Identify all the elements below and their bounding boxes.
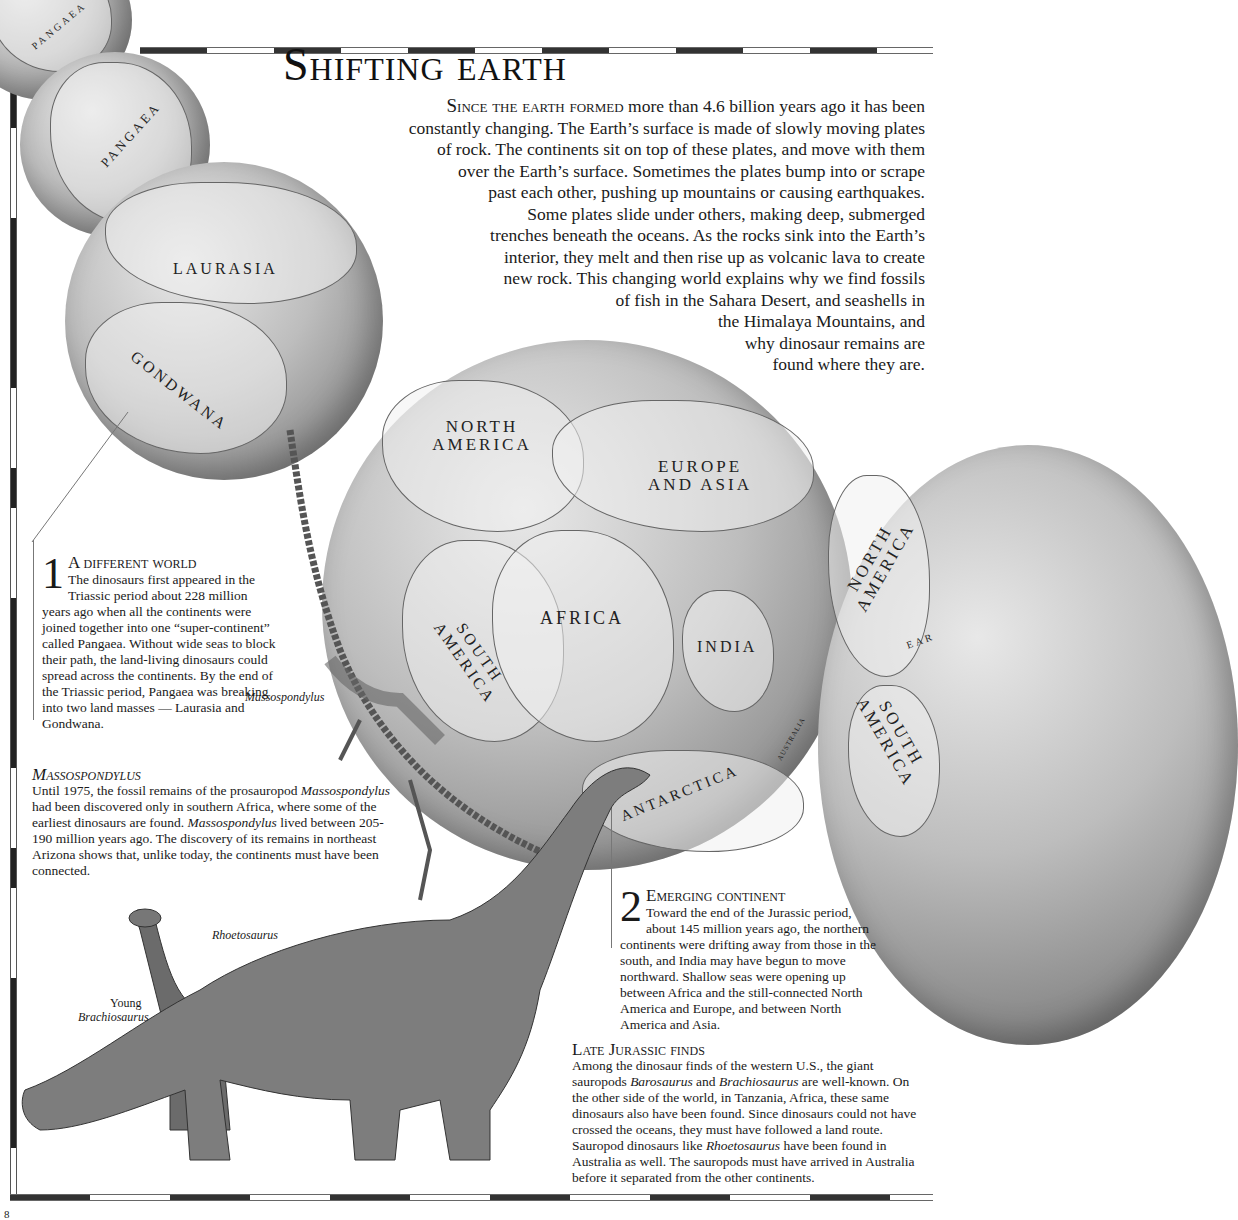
intro-paragraph: Since the earth formed more than 4.6 bil…: [340, 95, 925, 376]
left-decorative-border: [10, 88, 17, 1198]
globe-partial-right: NORTH AMERICA EAR SOUTH AMERICA: [818, 445, 1238, 1045]
section-title: Late Jurassic finds: [572, 1042, 927, 1058]
callout-a-different-world: 1 A different world The dinosaurs first …: [42, 555, 277, 732]
callout-number: 1: [42, 557, 64, 591]
young-caption: Young: [110, 996, 141, 1011]
rhoetosaurus-caption: Rhoetosaurus: [212, 928, 278, 943]
page-title: Shifting earth: [283, 38, 567, 91]
intro-lead: Since the earth formed: [447, 95, 624, 116]
late-jurassic-finds-section: Late Jurassic finds Among the dinosaur f…: [572, 1042, 927, 1186]
callout-number: 2: [620, 890, 642, 924]
callout-body: Toward the end of the Jurassic period, a…: [620, 905, 876, 1032]
callout-body: The dinosaurs first appeared in the Tria…: [42, 572, 276, 731]
bottom-decorative-border: [10, 1194, 933, 1201]
globe-label: INDIA: [697, 638, 757, 656]
globe-label: AUSTRALIA: [776, 716, 807, 762]
callout-emerging-continent: 2 Emerging continent Toward the end of t…: [620, 888, 880, 1033]
callout-heading: Emerging continent: [646, 886, 785, 905]
sauropod-illustration: [20, 750, 660, 1170]
brachiosaurus-caption: Brachiosaurus: [78, 1010, 149, 1025]
globe-label: LAURASIA: [173, 260, 278, 278]
page-number: 8: [4, 1208, 10, 1220]
callout1-leader-line: [33, 540, 34, 720]
callout1-leader-diagonal: [30, 410, 130, 545]
callout-heading: A different world: [68, 553, 197, 572]
globe-label: EUROPE AND ASIA: [640, 458, 760, 494]
